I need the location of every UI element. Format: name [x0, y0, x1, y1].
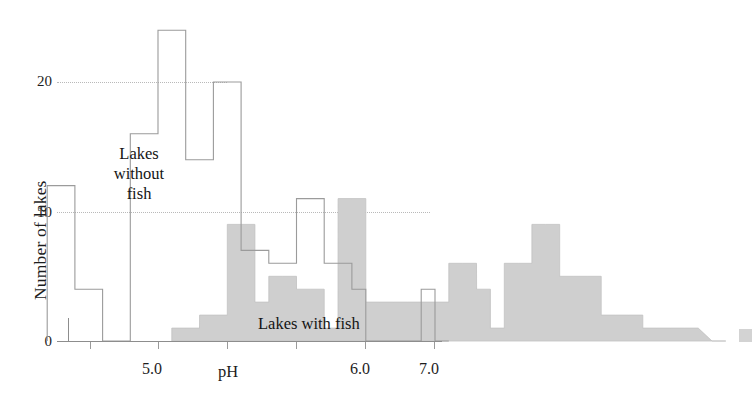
- annot-line-3: fish: [96, 184, 182, 204]
- outlier-marker: [739, 329, 752, 342]
- x-tick-5-50: [296, 342, 297, 349]
- annot-line-1: Lakes: [96, 144, 182, 164]
- x-tick-label-5-0: 5.0: [142, 360, 162, 378]
- series-lakes-with-fish: [172, 199, 726, 341]
- y-axis-line: [68, 318, 69, 342]
- x-tick-4-75: [90, 342, 91, 349]
- lakes-with-fish-annotation: Lakes with fish: [258, 314, 360, 334]
- lakes-without-fish-annotation: Lakes without fish: [96, 144, 182, 204]
- x-axis-line: [57, 341, 442, 342]
- x-tick-label-7-0: 7.0: [419, 360, 439, 378]
- x-tick-7-00: [434, 342, 435, 349]
- x-tick-5-25: [227, 342, 228, 349]
- x-tick-6-00: [365, 342, 366, 349]
- x-tick-label-6-0: 6.0: [350, 360, 370, 378]
- x-tick-5-00: [158, 342, 159, 349]
- annot-line-2: without: [96, 164, 182, 184]
- x-axis-title: pH: [218, 362, 238, 382]
